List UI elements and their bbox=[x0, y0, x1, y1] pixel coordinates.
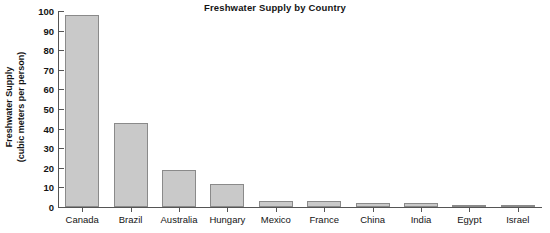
x-axis-tick-label: Australia bbox=[161, 214, 198, 225]
x-axis-tick-mark bbox=[421, 208, 422, 212]
y-axis-tick-label: 100 bbox=[38, 6, 54, 17]
y-axis-tick-label: 60 bbox=[43, 84, 54, 95]
bar bbox=[452, 205, 486, 207]
y-axis-tick-mark bbox=[59, 168, 64, 169]
x-axis-tick-mark bbox=[131, 208, 132, 212]
y-axis-tick-label: 50 bbox=[43, 104, 54, 115]
x-axis-tick-label: Egypt bbox=[457, 214, 481, 225]
bar bbox=[307, 201, 341, 207]
x-axis-tick-label: Hungary bbox=[209, 214, 245, 225]
y-axis-tick-mark bbox=[59, 89, 64, 90]
x-axis-tick-label: Canada bbox=[66, 214, 99, 225]
x-axis-tick-label: France bbox=[309, 214, 339, 225]
y-axis-tick-mark bbox=[59, 109, 64, 110]
y-axis-tick-label: 70 bbox=[43, 64, 54, 75]
y-axis-tick-label: 20 bbox=[43, 162, 54, 173]
bar bbox=[259, 201, 293, 207]
y-axis-tick-label: 10 bbox=[43, 182, 54, 193]
y-axis-tick-label: 90 bbox=[43, 25, 54, 36]
plot-area: 0102030405060708090100 CanadaBrazilAustr… bbox=[58, 11, 542, 207]
y-axis-tick-label: 0 bbox=[49, 202, 54, 213]
y-axis-tick-label: 80 bbox=[43, 45, 54, 56]
x-axis-tick-label: Brazil bbox=[119, 214, 143, 225]
y-axis-label-line1: Freshwater Supply bbox=[4, 51, 16, 162]
y-axis-tick-mark bbox=[59, 207, 64, 208]
y-axis-tick-mark bbox=[59, 129, 64, 130]
y-axis-tick-mark bbox=[59, 50, 64, 51]
x-axis-tick-mark bbox=[276, 208, 277, 212]
x-axis-tick-mark bbox=[518, 208, 519, 212]
y-axis-label-line2: (cubic meters per person) bbox=[15, 51, 27, 162]
x-axis-tick-mark bbox=[373, 208, 374, 212]
y-axis-label: Freshwater Supply (cubic meters per pers… bbox=[0, 0, 30, 213]
bar bbox=[404, 203, 438, 207]
y-axis-tick-mark bbox=[59, 31, 64, 32]
y-axis-tick-label: 40 bbox=[43, 123, 54, 134]
bar bbox=[210, 184, 244, 207]
bar bbox=[162, 170, 196, 207]
x-axis-tick-label: China bbox=[360, 214, 385, 225]
x-axis-tick-mark bbox=[82, 208, 83, 212]
bar bbox=[114, 123, 148, 207]
y-axis-tick-mark bbox=[59, 187, 64, 188]
y-axis-tick-label: 30 bbox=[43, 143, 54, 154]
x-axis-tick-mark bbox=[469, 208, 470, 212]
x-axis-tick-label: Mexico bbox=[261, 214, 291, 225]
bar bbox=[356, 203, 390, 207]
bar-chart: Freshwater Supply by Country Freshwater … bbox=[0, 0, 550, 233]
x-axis-tick-mark bbox=[227, 208, 228, 212]
x-axis-tick-label: India bbox=[411, 214, 432, 225]
bar bbox=[501, 205, 535, 207]
bar bbox=[65, 15, 99, 207]
x-axis-tick-label: Israel bbox=[506, 214, 529, 225]
y-axis-tick-mark bbox=[59, 70, 64, 71]
y-axis-tick-mark bbox=[59, 148, 64, 149]
x-axis-tick-mark bbox=[179, 208, 180, 212]
y-axis-tick-mark bbox=[59, 11, 64, 12]
x-axis-tick-mark bbox=[324, 208, 325, 212]
